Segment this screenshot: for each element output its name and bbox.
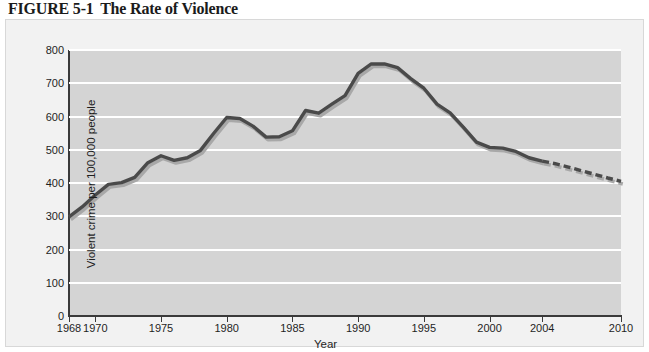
plot-area: Violent crime per 100,000 people [69, 50, 621, 316]
x-axis-title: Year [6, 338, 645, 350]
x-tick-mark [424, 316, 425, 322]
x-tick-mark [95, 316, 96, 322]
y-axis-tick-labels: 8007006005004003002001000 [6, 50, 64, 316]
x-tick-label: 2000 [477, 322, 501, 334]
x-tick-label: 1995 [412, 322, 436, 334]
x-tick-label: 1968 [57, 322, 81, 334]
x-tick-mark [358, 316, 359, 322]
y-tick-label: 600 [46, 112, 64, 123]
x-tick-label: 1985 [280, 322, 304, 334]
series-shadow [71, 67, 544, 220]
figure-container: FIGURE 5-1The Rate of Violence 800700600… [0, 0, 649, 352]
y-tick-label: 0 [58, 311, 64, 322]
y-tick-label: 200 [46, 245, 64, 256]
figure-title: FIGURE 5-1The Rate of Violence [8, 0, 238, 19]
y-tick-label: 500 [46, 145, 64, 156]
x-tick-mark [227, 316, 228, 322]
y-axis-title: Violent crime per 100,000 people [85, 84, 97, 284]
series-shadow [544, 164, 623, 184]
x-tick-mark [490, 316, 491, 322]
x-tick-mark [542, 316, 543, 322]
y-tick-label: 300 [46, 211, 64, 222]
x-tick-mark [292, 316, 293, 322]
x-tick-label: 2010 [609, 322, 633, 334]
x-tick-label: 1975 [149, 322, 173, 334]
x-tick-label: 2004 [530, 322, 554, 334]
y-tick-label: 700 [46, 78, 64, 89]
x-tick-mark [161, 316, 162, 322]
figure-panel: 8007006005004003002001000 Violent crime … [5, 19, 644, 347]
x-tick-label: 1970 [83, 322, 107, 334]
figure-title-text: The Rate of Violence [100, 0, 238, 18]
series-line-reported [69, 64, 542, 217]
x-tick-mark [69, 316, 70, 322]
y-tick-label: 400 [46, 178, 64, 189]
data-series-group [69, 50, 621, 316]
x-tick-label: 1980 [214, 322, 238, 334]
x-tick-mark [621, 316, 622, 322]
x-tick-label: 1990 [346, 322, 370, 334]
y-tick-label: 100 [46, 278, 64, 289]
figure-number: FIGURE 5-1 [8, 0, 94, 18]
y-tick-label: 800 [46, 45, 64, 56]
